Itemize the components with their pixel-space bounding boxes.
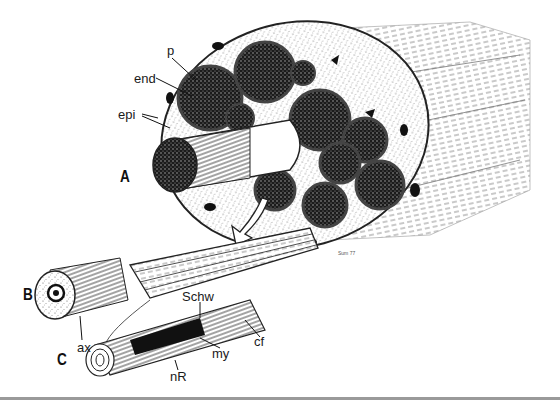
label-collagen-fibers: cf xyxy=(254,335,264,348)
label-schwann-cell: Schw xyxy=(182,290,214,303)
label-endoneurium: end xyxy=(134,72,156,85)
label-axon: ax xyxy=(77,341,91,354)
label-epineurium: epi xyxy=(118,108,135,121)
panel-label-b: B xyxy=(23,285,33,305)
panel-b-fiber xyxy=(35,258,128,319)
panel-label-c: C xyxy=(57,350,67,370)
label-myelin: my xyxy=(212,347,229,360)
bottom-rule xyxy=(0,397,560,400)
fiber-bundle xyxy=(130,228,318,298)
label-perineurium: p xyxy=(167,44,174,57)
panel-label-a: A xyxy=(120,167,130,187)
artist-signature: Sum 77 xyxy=(338,251,355,256)
nerve-anatomy-figure: p end epi ax Schw cf my nR Sum 77 A B C xyxy=(0,0,560,403)
label-node-of-ranvier: nR xyxy=(170,370,187,383)
panel-c-axon xyxy=(86,300,265,376)
